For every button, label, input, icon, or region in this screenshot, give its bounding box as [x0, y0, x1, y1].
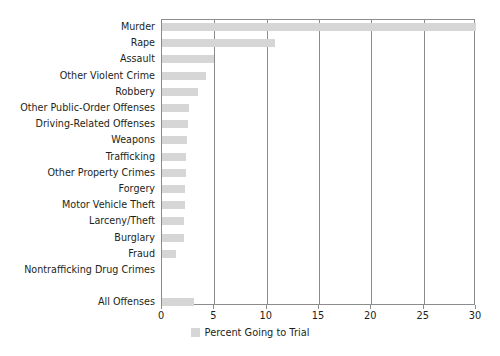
x-tick-label: 20: [350, 310, 390, 321]
figure-caption: [4, 347, 496, 356]
bar: [162, 39, 275, 47]
bar-row: Robbery: [0, 84, 500, 100]
bar-row: Other Property Crimes: [0, 165, 500, 181]
bar-row: Rape: [0, 35, 500, 51]
bar: [162, 234, 184, 242]
category-label: Driving-Related Offenses: [0, 116, 155, 132]
bar-row: Other Public-Order Offenses: [0, 100, 500, 116]
bar-row: Larceny/Theft: [0, 213, 500, 229]
x-tick-mark: [161, 305, 162, 309]
bar-row: Assault: [0, 51, 500, 67]
category-label: Murder: [0, 19, 155, 35]
bar-row: Fraud: [0, 246, 500, 262]
bar-row: Burglary: [0, 230, 500, 246]
x-tick-label: 30: [455, 310, 495, 321]
bar: [162, 250, 176, 258]
x-tick-mark: [213, 305, 214, 309]
bar: [162, 120, 188, 128]
bar: [162, 169, 186, 177]
category-label: Fraud: [0, 246, 155, 262]
bar: [162, 23, 476, 31]
bar: [162, 217, 184, 225]
category-label: Other Violent Crime: [0, 68, 155, 84]
x-tick-label: 0: [141, 310, 181, 321]
bar: [162, 201, 185, 209]
bar-row: Trafficking: [0, 149, 500, 165]
category-label: Trafficking: [0, 149, 155, 165]
legend-swatch-icon: [191, 328, 200, 337]
category-label: Burglary: [0, 230, 155, 246]
x-tick-mark: [370, 305, 371, 309]
bar: [162, 88, 198, 96]
bar-rows: MurderRapeAssaultOther Violent CrimeRobb…: [0, 0, 500, 286]
bar: [162, 55, 214, 63]
bar-row: Other Violent Crime: [0, 68, 500, 84]
bar: [162, 153, 186, 161]
bar-row: Motor Vehicle Theft: [0, 197, 500, 213]
x-tick-label: 15: [298, 310, 338, 321]
category-label: Other Property Crimes: [0, 165, 155, 181]
category-label: Forgery: [0, 181, 155, 197]
bar-row: Murder: [0, 19, 500, 35]
x-tick-label: 10: [246, 310, 286, 321]
category-label: Other Public-Order Offenses: [0, 100, 155, 116]
x-tick-mark: [423, 305, 424, 309]
bar-row: Driving-Related Offenses: [0, 116, 500, 132]
category-label: Larceny/Theft: [0, 213, 155, 229]
bar: [162, 104, 189, 112]
bar-row: Weapons: [0, 132, 500, 148]
bar-row: Forgery: [0, 181, 500, 197]
chart-figure: MurderRapeAssaultOther Violent CrimeRobb…: [0, 0, 500, 356]
bar: [162, 72, 206, 80]
x-tick-mark: [318, 305, 319, 309]
category-label: Rape: [0, 35, 155, 51]
category-label: Assault: [0, 51, 155, 67]
x-tick-mark: [475, 305, 476, 309]
legend-label: Percent Going to Trial: [205, 327, 310, 338]
bar-row: [0, 278, 500, 294]
category-label: Nontrafficking Drug Crimes: [0, 262, 155, 278]
bar: [162, 185, 185, 193]
x-tick-label: 25: [403, 310, 443, 321]
bar: [162, 136, 187, 144]
category-label: All Offenses: [0, 294, 155, 310]
x-tick-label: 5: [193, 310, 233, 321]
category-label: Robbery: [0, 84, 155, 100]
category-label: Weapons: [0, 132, 155, 148]
bar-row: Nontrafficking Drug Crimes: [0, 262, 500, 278]
x-tick-mark: [266, 305, 267, 309]
chart-legend: Percent Going to Trial: [0, 327, 500, 338]
category-label: Motor Vehicle Theft: [0, 197, 155, 213]
